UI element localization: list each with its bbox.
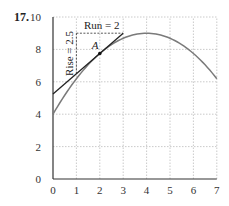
tick-labels: 012345670246810 [30, 11, 220, 196]
run-label: Run = 2 [84, 19, 120, 31]
x-tick-label: 7 [214, 184, 220, 196]
chart: 17. 012345670246810 Run = 2Rise = 2.5 A [0, 0, 229, 206]
y-tick-label: 2 [36, 141, 42, 153]
x-tick-label: 6 [191, 184, 197, 196]
point-a [98, 52, 102, 56]
rise-label: Rise = 2.5 [63, 30, 75, 76]
y-tick-label: 8 [36, 43, 42, 55]
curve-line [53, 33, 217, 114]
x-tick-label: 4 [144, 184, 150, 196]
problem-number: 17. [14, 10, 29, 24]
grid [53, 17, 217, 179]
plot-lines: A [53, 33, 217, 114]
axes [53, 17, 217, 179]
y-tick-label: 6 [36, 76, 42, 88]
y-tick-label: 10 [30, 11, 42, 23]
x-tick-label: 3 [120, 184, 126, 196]
y-tick-label: 4 [36, 108, 42, 120]
x-tick-label: 0 [50, 184, 56, 196]
x-tick-label: 5 [167, 184, 173, 196]
y-tick-label: 0 [36, 173, 42, 185]
point-a-label: A [91, 39, 99, 51]
x-tick-label: 2 [97, 184, 103, 196]
x-tick-label: 1 [74, 184, 80, 196]
